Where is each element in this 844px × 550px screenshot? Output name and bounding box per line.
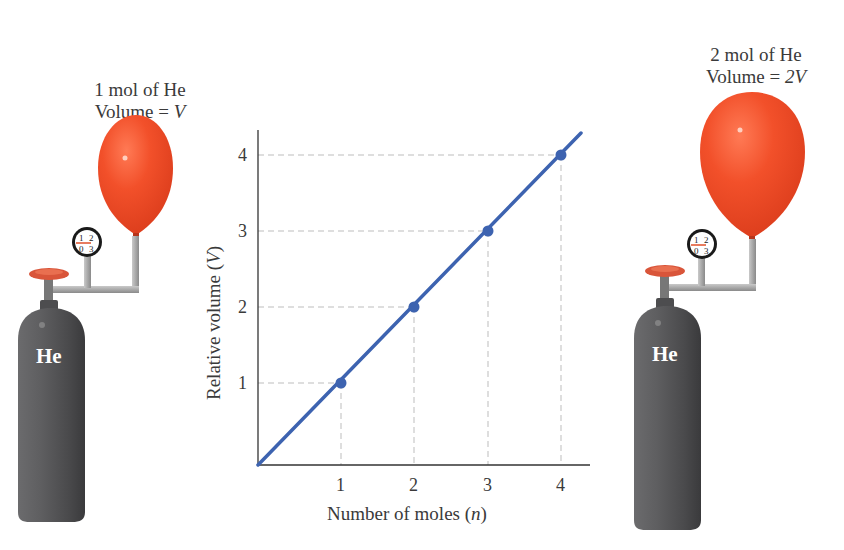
x-tick-1: 1 [336,475,345,495]
left-gauge-stem [84,254,91,288]
svg-text:2: 2 [704,235,709,245]
data-line [258,133,581,465]
left-helium-apparatus: 1 2 0 3 He [18,115,173,522]
x-tick-3: 3 [483,475,492,495]
right-gauge-stem [698,256,705,286]
left-horizontal-pipe [50,286,139,293]
y-tick-1: 1 [238,373,247,393]
x-tick-2: 2 [409,475,418,495]
svg-text:0: 0 [694,246,699,256]
left-pressure-gauge-icon: 1 2 0 3 [72,227,102,257]
svg-text:2: 2 [89,233,94,243]
data-point-4 [556,150,567,161]
svg-text:1: 1 [79,233,84,243]
right-helium-apparatus: 1 2 0 3 He [634,92,805,530]
data-point-1 [336,378,347,389]
svg-text:1: 1 [694,235,699,245]
right-tank-label: He [652,342,678,366]
left-helium-tank [18,308,85,522]
right-helium-tank [634,306,701,530]
x-tick-4: 4 [556,475,565,495]
illustration-canvas: 1 2 0 3 He 1 2 0 3 [0,0,844,550]
left-balloon [98,115,173,235]
y-tick-3: 3 [238,221,247,241]
y-tick-2: 2 [238,297,247,317]
right-balloon-highlight [738,128,743,133]
data-point-3 [483,226,494,237]
left-balloon-highlight [123,156,128,161]
left-vertical-pipe [132,236,139,292]
svg-text:3: 3 [89,244,94,254]
right-pressure-gauge-icon: 1 2 0 3 [687,229,717,259]
right-horizontal-pipe [666,284,756,291]
x-axis-title: Number of moles (n) [327,503,487,525]
y-axis-title: Relative volume (V) [203,246,225,400]
svg-text:3: 3 [704,246,709,256]
y-tick-4: 4 [238,145,247,165]
svg-text:0: 0 [79,244,84,254]
data-point-2 [409,302,420,313]
volume-vs-moles-chart: 1 2 3 4 1 2 3 4 Relative volume (V) Numb… [203,130,590,525]
left-tank-label: He [36,344,62,368]
right-vertical-pipe [749,239,756,291]
right-balloon [700,92,805,238]
